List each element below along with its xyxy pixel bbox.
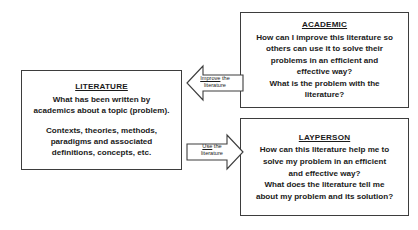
layperson-box: LAYPERSON How can this literature help m… (240, 118, 409, 216)
use-line2: literature (201, 150, 223, 156)
academic-line-3: problems in an efficient and (271, 55, 378, 67)
layperson-line-3: and effective way? (289, 168, 361, 180)
layperson-line-5: about my problem and its solution? (256, 191, 393, 203)
diagram-canvas: LITERATURE What has been written by acad… (0, 0, 418, 230)
layperson-heading: LAYPERSON (299, 132, 350, 144)
literature-p1-line2: academics about a topic (problem). (34, 105, 170, 116)
layperson-line-1: How can this literature help me to (260, 144, 390, 156)
academic-line-4: effective way? (297, 66, 352, 78)
improve-literature-label: Improve the literature (192, 75, 238, 90)
academic-line-6: literature? (305, 89, 345, 101)
use-keyword: Use (202, 143, 212, 149)
academic-line-1: How can I improve this literature so (256, 32, 393, 44)
improve-line2: literature (204, 82, 226, 88)
improve-rest: the (220, 75, 229, 81)
layperson-line-4: What does the literature tell me (264, 179, 384, 191)
literature-p2-line2: paradigms and associated (51, 136, 153, 147)
improve-keyword: Improve (200, 75, 220, 81)
layperson-line-2: solve my problem in an efficient (263, 156, 386, 168)
literature-box: LITERATURE What has been written by acad… (21, 70, 182, 170)
academic-line-5: What is the problem with the (269, 78, 379, 90)
literature-p2-line1: Contexts, theories, methods, (46, 125, 157, 136)
academic-line-2: others can use it to solve their (266, 43, 383, 55)
literature-p2-line3: definitions, concepts, etc. (52, 147, 151, 158)
academic-box: ACADEMIC How can I improve this literatu… (240, 12, 409, 108)
literature-heading: LITERATURE (75, 81, 128, 92)
use-literature-label: Use the literature (189, 143, 235, 158)
literature-p1-line1: What has been written by (53, 94, 151, 105)
use-rest: the (212, 143, 221, 149)
academic-heading: ACADEMIC (302, 19, 347, 31)
